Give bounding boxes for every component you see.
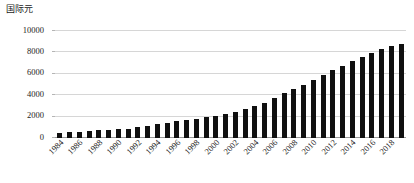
bar <box>204 117 209 138</box>
bar-series <box>55 31 406 138</box>
bar <box>360 57 365 138</box>
bar <box>87 131 92 138</box>
bar <box>321 75 326 139</box>
bar <box>233 112 238 139</box>
y-axis-title: 国际元 <box>6 4 34 15</box>
bar <box>145 126 150 138</box>
bar <box>389 46 394 138</box>
bar <box>272 98 277 138</box>
y-axis-tick-label: 8000 <box>0 47 44 56</box>
bar <box>291 89 296 138</box>
bar <box>184 120 189 138</box>
bar <box>311 80 316 138</box>
bar <box>155 124 160 138</box>
y-axis-tick-label: 0 <box>0 133 44 142</box>
y-axis-tick-label: 2000 <box>0 111 44 120</box>
bar <box>262 103 267 139</box>
plot-area: 0200040006000800010000 <box>55 30 406 138</box>
bar <box>174 121 179 138</box>
bar <box>213 116 218 139</box>
bar <box>252 106 257 138</box>
x-axis-labels: 1984198619881990199219941996199820002002… <box>55 138 406 183</box>
bar <box>350 61 355 138</box>
bar <box>243 109 248 138</box>
bar <box>282 93 287 138</box>
bar-chart: 国际元 0200040006000800010000 1984198619881… <box>0 0 414 183</box>
bar <box>399 44 404 138</box>
y-axis-tick-label: 10000 <box>0 26 44 35</box>
bar <box>369 53 374 138</box>
bar <box>126 129 131 138</box>
bar <box>165 123 170 138</box>
bar <box>194 119 199 139</box>
bar <box>301 85 306 138</box>
y-axis-tick-label: 4000 <box>0 90 44 99</box>
bar <box>340 66 345 138</box>
bar <box>106 130 111 138</box>
bar <box>330 70 335 138</box>
y-axis-tick-label: 6000 <box>0 68 44 77</box>
bar <box>379 49 384 138</box>
bar <box>223 114 228 138</box>
